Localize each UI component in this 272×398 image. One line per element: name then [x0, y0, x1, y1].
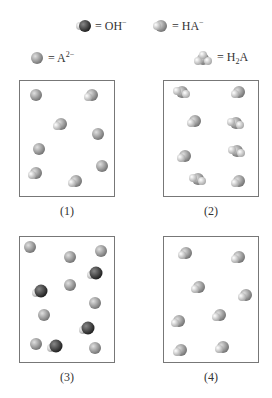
ha-molecule-icon [228, 247, 248, 267]
a2-ion-icon [91, 241, 111, 261]
legend-oh: = OH− [75, 18, 127, 34]
ha-molecule-icon [170, 340, 190, 360]
ha-molecule-icon [65, 171, 85, 191]
ha-molecule-icon [174, 146, 194, 166]
panel-2 [163, 80, 259, 197]
a2-ion-icon [85, 338, 105, 358]
ha-molecule-icon [81, 85, 101, 105]
panel-3 [19, 236, 115, 363]
panel-1-label: (1) [47, 204, 87, 219]
legend-ha-text: = HA [172, 19, 199, 33]
panel-4-label: (4) [191, 370, 231, 385]
legend-a2-text: = A [48, 51, 66, 65]
ha-molecule-icon [25, 163, 45, 183]
h2a-molecule-icon [227, 141, 247, 161]
legend-oh-text: = OH [95, 19, 122, 33]
h2a-molecule-icon [193, 50, 213, 66]
ha-molecule-icon [235, 285, 255, 305]
h2a-molecule-icon [188, 169, 208, 189]
a2-ion-icon [26, 334, 46, 354]
ha-molecule-icon [209, 305, 229, 325]
ha-molecule-icon [228, 171, 248, 191]
ha-molecule-icon [168, 311, 188, 331]
a2-ion-icon [20, 237, 40, 257]
oh-molecule-icon [75, 19, 91, 33]
a2-ion-icon [88, 124, 108, 144]
oh-molecule-icon [45, 336, 65, 356]
a2-ion-icon [85, 293, 105, 313]
a2-ion-icon [34, 305, 54, 325]
ha-molecule-icon [152, 19, 168, 33]
panel-3-label: (3) [47, 370, 87, 385]
legend-ha: = HA− [152, 18, 204, 34]
a2-ion-icon [26, 85, 46, 105]
legend-h2a: = H2A [193, 50, 248, 66]
oh-molecule-icon [85, 263, 105, 283]
ha-molecule-icon [175, 243, 195, 263]
h2a-molecule-icon [226, 113, 246, 133]
a2-ion-icon [60, 275, 80, 295]
ha-molecule-icon [228, 82, 248, 102]
ha-molecule-icon [184, 111, 204, 131]
panel-4 [163, 236, 259, 363]
oh-molecule-icon [77, 318, 97, 338]
ha-molecule-icon [212, 337, 232, 357]
panel-1 [19, 80, 115, 197]
a2-ion-icon [60, 247, 80, 267]
ha-molecule-icon [50, 114, 70, 134]
legend-a2: = A2− [30, 50, 74, 66]
a2-ion-icon [30, 51, 44, 65]
a2-ion-icon [29, 139, 49, 159]
panel-2-label: (2) [191, 204, 231, 219]
h2a-molecule-icon [172, 82, 192, 102]
oh-molecule-icon [30, 281, 50, 301]
a2-ion-icon [92, 156, 112, 176]
ha-molecule-icon [188, 277, 208, 297]
